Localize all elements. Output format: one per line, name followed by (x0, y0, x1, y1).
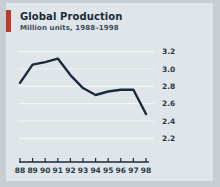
chart-subtitle: Million units, 1988–1998 (20, 24, 119, 32)
y-axis-tick-labels: 2.22.42.62.83.03.2 (162, 47, 175, 143)
line-chart-plot: 2.22.42.62.83.03.2 888990919293949596979… (14, 39, 204, 184)
x-axis-tick-label: 96 (116, 166, 126, 175)
accent-bar (6, 10, 11, 32)
x-axis-tick-label: 97 (128, 166, 138, 175)
x-axis-tick-label: 90 (40, 166, 50, 175)
x-axis-tick-label: 93 (78, 166, 88, 175)
page-title: Global Production (20, 11, 123, 22)
x-axis-tick-labels: 8889909192939495969798 (15, 166, 151, 175)
y-axis-tick-label: 3.0 (162, 65, 175, 74)
x-axis-tick-label: 88 (15, 166, 25, 175)
y-axis-tick-label: 2.8 (162, 82, 175, 91)
y-axis-tick-label: 2.6 (162, 99, 175, 108)
x-axis-tick-label: 98 (141, 166, 151, 175)
x-axis-tick-label: 92 (65, 166, 75, 175)
y-axis-tick-label: 3.2 (162, 47, 175, 56)
x-axis-tick-label: 94 (90, 166, 100, 175)
chart-svg: 2.22.42.62.83.03.2 888990919293949596979… (14, 39, 204, 184)
x-axis-tick-label: 91 (53, 166, 63, 175)
x-axis (19, 158, 149, 162)
x-axis-tick-label: 95 (103, 166, 113, 175)
y-axis-tick-label: 2.4 (162, 117, 175, 126)
x-axis-tick-label: 89 (27, 166, 37, 175)
chart-card: Global Production Million units, 1988–19… (6, 3, 213, 181)
y-axis-tick-label: 2.2 (162, 134, 175, 143)
